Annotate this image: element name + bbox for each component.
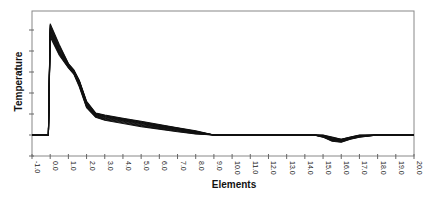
data-series	[32, 24, 414, 143]
series-line	[32, 25, 414, 139]
series-line	[32, 32, 414, 141]
series-line	[32, 29, 414, 140]
x-tick-label: 11.0	[252, 161, 259, 174]
x-tick-label: 9.0	[216, 161, 223, 171]
x-tick-label: 17.0	[361, 161, 368, 175]
x-tick-label: -1.0	[34, 161, 41, 173]
series-line	[32, 36, 414, 142]
x-tick-label: 13.0	[289, 161, 296, 175]
x-tick-label: 1.0	[70, 161, 77, 171]
y-axis-label: Temperature	[13, 42, 24, 122]
series-line	[32, 31, 414, 141]
x-tick-label: 0.0	[52, 161, 59, 171]
x-tick-label: 19.0	[398, 161, 405, 175]
x-tick-label: 2.0	[89, 161, 96, 171]
x-tick-label: 20.0	[416, 161, 423, 175]
series-line	[32, 24, 414, 140]
x-tick-label: 7.0	[180, 161, 187, 171]
x-axis-ticks: -1.00.01.02.03.04.05.06.07.08.09.010.011…	[32, 154, 423, 175]
x-tick-label: 5.0	[143, 161, 150, 171]
x-tick-label: 16.0	[343, 161, 350, 175]
x-tick-label: 6.0	[161, 161, 168, 171]
x-tick-label: 4.0	[125, 161, 132, 171]
x-tick-label: 3.0	[107, 161, 114, 171]
series-line	[32, 34, 414, 142]
x-axis-label: Elements	[212, 179, 256, 190]
x-tick-label: 18.0	[380, 161, 387, 175]
series-line	[32, 27, 414, 140]
x-tick-label: 14.0	[307, 161, 314, 175]
line-chart: -1.00.01.02.03.04.05.06.07.08.09.010.011…	[0, 0, 428, 198]
x-axis-label-wrap: Elements	[0, 179, 428, 190]
series-line	[32, 35, 414, 142]
x-tick-label: 12.0	[270, 161, 277, 175]
x-tick-label: 10.0	[234, 161, 241, 175]
plot-frame	[32, 11, 414, 156]
series-line	[32, 28, 414, 140]
x-tick-label: 8.0	[198, 161, 205, 171]
x-tick-label: 15.0	[325, 161, 332, 175]
